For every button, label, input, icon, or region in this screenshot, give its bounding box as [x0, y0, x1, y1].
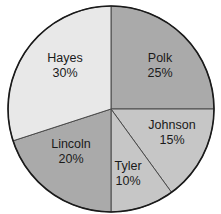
pie-chart: Polk25%Johnson15%Tyler10%Lincoln20%Hayes…	[0, 0, 221, 214]
slice-percent: 25%	[147, 66, 172, 80]
slice-name: Lincoln	[51, 137, 91, 151]
slice-name: Polk	[148, 51, 173, 65]
slice-label-polk: Polk25%	[147, 51, 172, 80]
slice-percent: 20%	[58, 152, 83, 166]
slice-name: Tyler	[114, 159, 141, 173]
slice-name: Johnson	[148, 118, 195, 132]
slice-percent: 10%	[115, 174, 140, 188]
slice-label-tyler: Tyler10%	[114, 159, 141, 188]
slice-label-hayes: Hayes30%	[47, 51, 82, 80]
slice-percent: 15%	[159, 133, 184, 147]
pie-slices	[8, 6, 214, 212]
slice-name: Hayes	[47, 51, 82, 65]
slice-percent: 30%	[52, 66, 77, 80]
